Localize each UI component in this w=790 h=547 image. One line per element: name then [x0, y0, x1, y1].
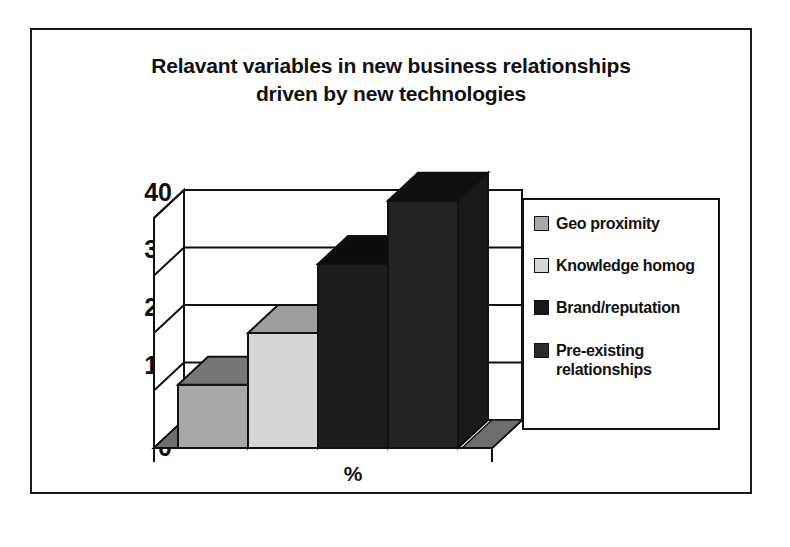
x-axis-title: % [184, 462, 522, 486]
plot-area: 40 30 20 10 0 [132, 170, 552, 490]
chart-3d-geometry [132, 170, 552, 490]
legend-item-geo-proximity[interactable]: Geo proximity [534, 214, 710, 233]
bar-pre-existing-relationships [388, 173, 488, 448]
chart-title-line-1: Relavant variables in new business relat… [151, 54, 630, 77]
legend-label-knowledge-homog: Knowledge homog [556, 256, 695, 275]
bar-1-front [178, 385, 248, 448]
legend-swatch-icon-knowledge-homog [534, 258, 549, 273]
bar-2-front [248, 333, 318, 448]
legend-item-knowledge-homog[interactable]: Knowledge homog [534, 256, 710, 275]
chart-title-line-2: driven by new technologies [32, 80, 750, 108]
legend-item-brand-reputation[interactable]: Brand/reputation [534, 298, 710, 317]
legend-item-pre-existing-relationships[interactable]: Pre-existing relationships [534, 341, 710, 379]
legend-swatch-icon-pre-existing-relationships [534, 343, 549, 358]
legend-label-geo-proximity: Geo proximity [556, 214, 660, 233]
bar-4-front [388, 201, 458, 448]
chart-figure-frame: Relavant variables in new business relat… [30, 28, 752, 494]
legend-label-pre-existing-relationships: Pre-existing relationships [556, 341, 710, 379]
legend-swatch-icon-geo-proximity [534, 216, 549, 231]
legend-label-brand-reputation: Brand/reputation [556, 298, 680, 317]
chart-title: Relavant variables in new business relat… [32, 52, 750, 109]
bar-3-front [318, 264, 388, 448]
legend-swatch-icon-brand-reputation [534, 300, 549, 315]
bar-4-side [458, 173, 488, 448]
chart-legend: Geo proximity Knowledge homog Brand/repu… [522, 198, 720, 430]
